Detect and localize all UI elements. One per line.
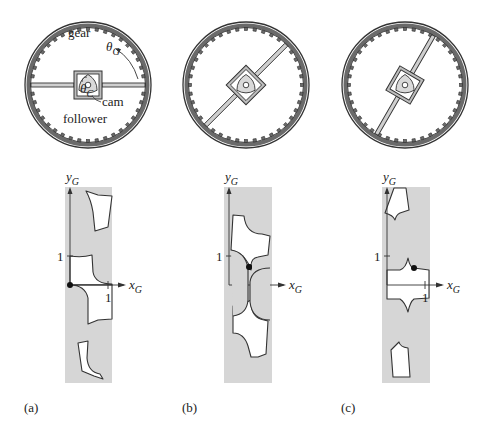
gear-tooth (348, 92, 351, 96)
obstacle-boundary (250, 268, 270, 320)
gear-tooth (301, 83, 304, 86)
theta-g-label: θG (106, 39, 120, 57)
gear-tooth (456, 100, 460, 104)
gear-tooth (350, 66, 354, 70)
follower-arm (31, 83, 74, 87)
follower-arm (375, 96, 400, 135)
gear-tooth (86, 140, 89, 143)
panel-label-b: (b) (182, 400, 197, 416)
cam-follower-diagram: gearθGθCcamfollower11xGyG11xGyG11xGyG (0, 0, 489, 427)
follower-arm (410, 35, 435, 74)
x-axis-label: xG (128, 277, 142, 295)
cam-shaft (402, 82, 408, 88)
gear-tooth (261, 136, 265, 140)
y-tick-label: 1 (57, 249, 64, 264)
x-axis-arrow-icon (278, 283, 286, 288)
gear-a: gearθGθCcamfollower (25, 22, 151, 148)
gear-tooth (33, 66, 37, 70)
gear-tooth (142, 74, 145, 78)
x-axis-label: xG (446, 277, 460, 295)
gear-tooth (244, 140, 247, 143)
gear-tooth (403, 28, 406, 31)
gear-tooth (394, 139, 398, 142)
configuration-point (246, 264, 252, 270)
gear-tooth (189, 83, 192, 86)
gear-tooth (235, 28, 239, 31)
figure: gearθGθCcamfollower11xGyG11xGyG11xGyG (a… (0, 0, 489, 427)
gear-tooth (297, 100, 301, 104)
gear-tooth (348, 83, 351, 86)
cspace-a: 11xGyG (57, 169, 142, 383)
gear-tooth (420, 136, 424, 140)
y-axis-label: yG (64, 169, 79, 187)
gear-tooth (412, 28, 416, 31)
gear-c (342, 22, 468, 148)
cspace-b: 11xGyG (216, 169, 302, 383)
follower-arm (254, 43, 287, 76)
x-axis-arrow-icon (118, 283, 126, 288)
obstacle-boundary (231, 250, 248, 316)
gear-tooth (189, 92, 192, 96)
cam-shaft (243, 82, 249, 88)
gear-tooth (348, 74, 351, 78)
gear-tooth (95, 28, 99, 31)
y-tick-label: 1 (374, 249, 381, 264)
gear-tooth (31, 74, 34, 78)
gear-tooth (412, 139, 416, 142)
configuration-point (411, 265, 417, 271)
gear-tooth (227, 30, 231, 34)
gear-tooth (403, 140, 406, 143)
gear-tooth (253, 139, 257, 142)
gear-tooth (297, 66, 301, 70)
panel-label-c: (c) (341, 400, 355, 416)
y-tick-label: 1 (216, 249, 223, 264)
gear-tooth (139, 100, 143, 104)
x-axis-arrow-icon (436, 283, 444, 288)
gear-tooth (189, 74, 192, 78)
y-axis-label: yG (223, 169, 238, 187)
y-axis-label: yG (381, 169, 396, 187)
gear-tooth (69, 136, 73, 140)
gear-tooth (95, 139, 99, 142)
panel-label-a: (a) (24, 400, 38, 416)
gear-tooth (459, 74, 462, 78)
gear-b (183, 22, 309, 148)
x-axis-label: xG (288, 277, 302, 295)
gear-tooth (420, 30, 424, 34)
gear-tooth (139, 66, 143, 70)
gear-tooth (261, 30, 265, 34)
gear-tooth (227, 136, 231, 140)
gear-tooth (460, 83, 463, 86)
gear-tooth (77, 139, 81, 142)
gear-label: gear (68, 25, 91, 40)
gear-tooth (386, 136, 390, 140)
gear-tooth (253, 28, 257, 31)
follower-arm (102, 83, 145, 87)
gear-tooth (191, 66, 195, 70)
gear-tooth (33, 100, 37, 104)
gear-tooth (244, 28, 247, 31)
gear-tooth (103, 30, 107, 34)
configuration-point (67, 282, 73, 288)
x-tick-label: 1 (422, 290, 429, 305)
gear-tooth (31, 92, 34, 96)
cspace-c: 11xGyG (374, 169, 460, 383)
gear-tooth (191, 100, 195, 104)
gear-tooth (142, 92, 145, 96)
gear-tooth (394, 28, 398, 31)
gear-tooth (300, 74, 303, 78)
cam-label: cam (102, 94, 124, 109)
gear-tooth (456, 66, 460, 70)
gear-tooth (235, 139, 239, 142)
follower-arm (204, 93, 237, 126)
follower-label: follower (63, 111, 108, 126)
gear-tooth (103, 136, 107, 140)
gear-tooth (386, 30, 390, 34)
x-tick-label: 1 (105, 290, 112, 305)
gear-tooth (459, 92, 462, 96)
gear-tooth (300, 92, 303, 96)
gear-tooth (350, 100, 354, 104)
